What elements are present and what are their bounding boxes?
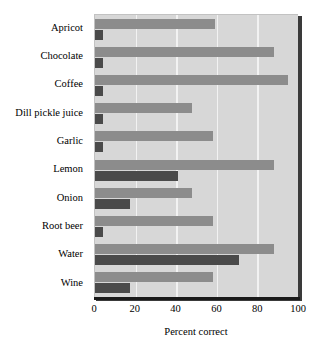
category-label-cell: Water (0, 240, 88, 268)
bar (95, 47, 274, 57)
bar (95, 171, 178, 181)
category-label-cell: Apricot (0, 14, 88, 42)
bar (95, 131, 213, 141)
bar (95, 114, 103, 124)
bar (95, 86, 103, 96)
bar-group (95, 212, 298, 240)
category-label-cell: Onion (0, 184, 88, 212)
bar (95, 272, 213, 282)
x-tick-label: 40 (170, 303, 181, 314)
bar-group (95, 15, 298, 43)
bar-group (95, 71, 298, 99)
x-tick-label: 80 (252, 303, 263, 314)
bars-layer (95, 15, 298, 297)
category-label: Wine (61, 278, 83, 289)
x-axis-ticks: 020406080100 (94, 303, 298, 319)
bar-group (95, 128, 298, 156)
category-axis: ApricotChocolateCoffeeDill pickle juiceG… (0, 14, 88, 297)
bar-group (95, 241, 298, 269)
x-axis-title: Percent correct (94, 326, 298, 337)
category-label-cell: Chocolate (0, 42, 88, 70)
bar-group (95, 269, 298, 297)
bar (95, 283, 130, 293)
category-label: Garlic (57, 136, 83, 147)
bar (95, 244, 274, 254)
category-label: Water (58, 249, 83, 260)
category-label-cell: Dill pickle juice (0, 99, 88, 127)
category-label: Chocolate (40, 51, 83, 62)
bar (95, 142, 103, 152)
plot-area (94, 14, 298, 297)
bar (95, 19, 215, 29)
x-tick-label: 60 (211, 303, 222, 314)
bar (95, 160, 274, 170)
bar (95, 199, 130, 209)
category-label-cell: Wine (0, 269, 88, 297)
category-label: Coffee (55, 79, 83, 90)
category-label-cell: Garlic (0, 127, 88, 155)
category-label: Onion (57, 193, 83, 204)
x-axis-line (94, 297, 300, 300)
category-label: Apricot (51, 23, 83, 34)
x-tick-label: 100 (290, 303, 306, 314)
bar (95, 75, 288, 85)
x-tick-label: 20 (130, 303, 141, 314)
bar (95, 188, 192, 198)
bar-group (95, 156, 298, 184)
bar-group (95, 100, 298, 128)
category-label-cell: Coffee (0, 71, 88, 99)
bar (95, 216, 213, 226)
category-label: Root beer (42, 221, 83, 232)
bar-group (95, 43, 298, 71)
category-label: Lemon (53, 164, 83, 175)
bar-chart: ApricotChocolateCoffeeDill pickle juiceG… (0, 0, 323, 357)
bar (95, 103, 192, 113)
category-label: Dill pickle juice (15, 108, 83, 119)
bar (95, 30, 103, 40)
x-tick-label: 0 (91, 303, 96, 314)
bar-group (95, 184, 298, 212)
bar (95, 227, 103, 237)
bar (95, 58, 103, 68)
bar (95, 255, 239, 265)
category-label-cell: Root beer (0, 212, 88, 240)
category-label-cell: Lemon (0, 155, 88, 183)
